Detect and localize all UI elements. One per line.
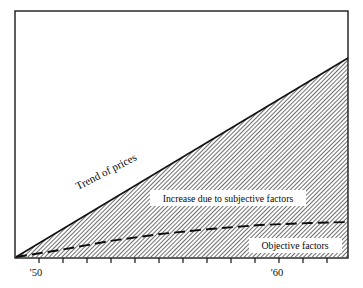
x-tick-label-1960: '60 — [271, 267, 283, 278]
annotation-objective-factors: Objective factors — [261, 240, 328, 251]
annotation-subjective-factors-group: Increase due to subjective factors — [150, 190, 306, 206]
annotation-subjective-factors: Increase due to subjective factors — [163, 193, 294, 204]
x-tick-label-1950: '50 — [30, 267, 42, 278]
chart-figure: '50 '60 Trend of prices Increase due to … — [0, 0, 363, 288]
annotation-objective-factors-group: Objective factors — [249, 238, 342, 253]
x-axis-ticks — [39, 258, 327, 263]
chart-canvas: '50 '60 Trend of prices Increase due to … — [0, 0, 363, 288]
